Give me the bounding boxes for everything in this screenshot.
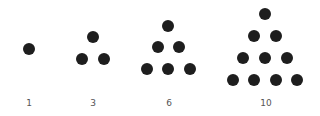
dot-icon bbox=[248, 74, 260, 86]
dot-icon bbox=[23, 43, 35, 55]
dot-icon bbox=[173, 41, 185, 53]
group-label: 10 bbox=[251, 98, 281, 108]
triangular-numbers-diagram: 1 3 6 10 bbox=[0, 0, 320, 116]
dot-icon bbox=[259, 8, 271, 20]
dot-icon bbox=[162, 20, 174, 32]
dot-icon bbox=[270, 30, 282, 42]
dot-icon bbox=[152, 41, 164, 53]
dot-icon bbox=[87, 31, 99, 43]
dot-icon bbox=[248, 30, 260, 42]
dot-icon bbox=[237, 52, 249, 64]
group-label: 3 bbox=[78, 98, 108, 108]
group-label: 1 bbox=[14, 98, 44, 108]
group-label: 6 bbox=[154, 98, 184, 108]
dot-icon bbox=[259, 52, 271, 64]
dot-icon bbox=[141, 63, 153, 75]
dot-icon bbox=[270, 74, 282, 86]
dot-icon bbox=[76, 53, 88, 65]
dot-icon bbox=[162, 63, 174, 75]
dot-icon bbox=[227, 74, 239, 86]
dot-icon bbox=[281, 52, 293, 64]
dot-icon bbox=[184, 63, 196, 75]
dot-icon bbox=[291, 74, 303, 86]
dot-icon bbox=[98, 53, 110, 65]
